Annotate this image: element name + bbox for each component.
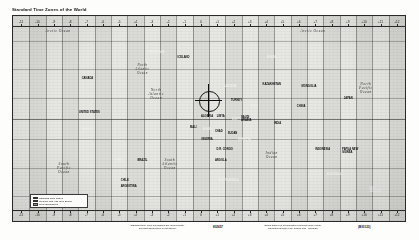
- axis-tick: [201, 24, 202, 27]
- axis-tick: [87, 24, 88, 27]
- axis-tick-label: +12: [394, 20, 399, 24]
- footer-left-number: 802657: [213, 225, 223, 229]
- axis-tick: [119, 24, 120, 27]
- axis-tick: [54, 24, 55, 27]
- axis-tick-label: -5: [118, 213, 121, 217]
- axis-tick: [332, 24, 333, 27]
- axis-tick: [283, 24, 284, 27]
- axis-tick-label: +9: [346, 20, 350, 24]
- legend-rows: Standard Time ZonesIrregular and Half-ho…: [33, 196, 85, 206]
- axis-tick: [348, 24, 349, 27]
- page-title: Standard Time Zones of the World: [12, 5, 132, 14]
- axis-tick-label: +10: [362, 20, 367, 24]
- axis-tick-label: +4: [264, 213, 268, 217]
- axis-tick-label: +12: [394, 213, 399, 217]
- axis-tick: [103, 24, 104, 27]
- axis-tick-label: +1: [215, 20, 219, 24]
- axis-tick-label: -9: [52, 20, 55, 24]
- axis-tick-label: +7: [313, 213, 317, 217]
- axis-tick-label: -2: [167, 213, 170, 217]
- axis-tick: [315, 24, 316, 27]
- axis-tick-label: -10: [35, 20, 39, 24]
- axis-tick: [152, 24, 153, 27]
- axis-tick-label: +5: [281, 20, 285, 24]
- axis-tick: [364, 24, 365, 27]
- axis-tick-label: -6: [101, 213, 104, 217]
- axis-tick-label: +7: [313, 20, 317, 24]
- axis-tick: [70, 24, 71, 27]
- axis-tick-label: +11: [378, 213, 383, 217]
- page-title-text: Standard Time Zones of the World: [12, 5, 132, 14]
- axis-top: -11-10-9-8-7-6-5-4-3-2-10+1+2+3+4+5+6+7+…: [13, 16, 405, 27]
- legend-label: Zone Boundaries: [39, 203, 58, 206]
- legend-row: Zone Boundaries: [33, 203, 85, 206]
- axis-tick: [217, 24, 218, 27]
- axis-tick-label: -1: [183, 213, 186, 217]
- vignette: [13, 16, 405, 221]
- axis-tick-label: -2: [167, 20, 170, 24]
- axis-tick-label: -5: [118, 20, 121, 24]
- axis-tick: [185, 24, 186, 27]
- map-plot: Arctic OceanArctic OceanNorth Pacific Oc…: [13, 16, 405, 221]
- axis-tick-label: +3: [248, 213, 252, 217]
- axis-tick-label: +9: [346, 213, 350, 217]
- axis-tick-label: +1: [215, 213, 219, 217]
- legend-swatch: [33, 200, 38, 202]
- legend-swatch: [33, 197, 38, 199]
- axis-tick-label: +8: [330, 20, 334, 24]
- axis-tick-label: -3: [150, 213, 153, 217]
- axis-bottom-rule: [13, 210, 405, 211]
- axis-tick-label: +3: [248, 20, 252, 24]
- axis-tick-label: +10: [362, 213, 367, 217]
- axis-tick: [250, 24, 251, 27]
- axis-tick-label: -9: [52, 213, 55, 217]
- footer-left-caption: Standard time zone boundaries are approx…: [105, 224, 210, 230]
- axis-tick-label: +6: [297, 213, 301, 217]
- axis-tick-label: -8: [69, 20, 72, 24]
- footer-right-number: (B00123): [358, 225, 371, 229]
- axis-tick-label: 0: [200, 20, 202, 24]
- axis-tick-label: +4: [264, 20, 268, 24]
- axis-tick-label: -1: [183, 20, 186, 24]
- time-zone-map-page: Standard Time Zones of the World Arctic …: [0, 0, 419, 240]
- axis-tick-label: -4: [134, 20, 137, 24]
- axis-bottom: -11-10-9-8-7-6-5-4-3-2-10+1+2+3+4+5+6+7+…: [13, 210, 405, 221]
- axis-tick-label: +2: [232, 20, 236, 24]
- axis-top-rule: [13, 26, 405, 27]
- axis-tick-label: +11: [378, 20, 383, 24]
- axis-tick: [266, 24, 267, 27]
- axis-tick-label: -8: [69, 213, 72, 217]
- axis-tick-label: +5: [281, 213, 285, 217]
- axis-tick: [234, 24, 235, 27]
- axis-tick-label: -11: [19, 20, 23, 24]
- axis-tick-label: -3: [150, 20, 153, 24]
- axis-tick: [38, 24, 39, 27]
- legend-swatch: [33, 203, 38, 205]
- axis-tick-label: -4: [134, 213, 137, 217]
- axis-tick: [168, 24, 169, 27]
- axis-tick-label: -7: [85, 20, 88, 24]
- axis-tick-label: 0: [200, 213, 202, 217]
- axis-tick-label: -6: [101, 20, 104, 24]
- axis-tick-label: -7: [85, 213, 88, 217]
- axis-tick: [381, 24, 382, 27]
- axis-tick: [397, 24, 398, 27]
- axis-tick-label: +2: [232, 213, 236, 217]
- axis-tick-label: +8: [330, 213, 334, 217]
- map-legend: Standard Time ZonesIrregular and Half-ho…: [30, 194, 88, 208]
- axis-tick: [21, 24, 22, 27]
- axis-tick-label: -11: [19, 213, 23, 217]
- footer-right-caption: Zones based on Coordinated Universal Tim…: [233, 224, 353, 230]
- axis-tick-label: +6: [297, 20, 301, 24]
- map-frame: Arctic OceanArctic OceanNorth Pacific Oc…: [12, 15, 406, 222]
- axis-tick: [136, 24, 137, 27]
- axis-tick-label: -10: [35, 213, 39, 217]
- axis-tick: [299, 24, 300, 27]
